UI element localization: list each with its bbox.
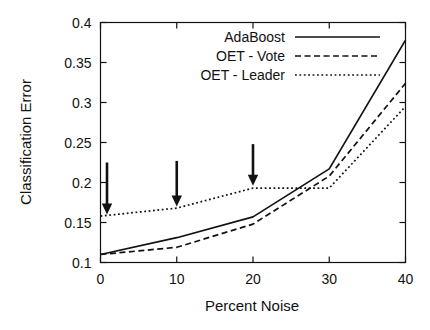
y-tick-label: 0.2 bbox=[72, 175, 92, 191]
x-tick-label: 30 bbox=[321, 271, 337, 287]
chart-figure: 010203040 0.10.150.20.250.30.350.4 AdaBo… bbox=[0, 0, 430, 330]
y-tick-label: 0.1 bbox=[72, 255, 92, 271]
y-axis-title: Classification Error bbox=[17, 79, 34, 205]
x-tick-label: 40 bbox=[398, 271, 414, 287]
legend-label-adaboost: AdaBoost bbox=[224, 29, 285, 45]
x-tick-label: 20 bbox=[245, 271, 261, 287]
y-tick-label: 0.15 bbox=[64, 215, 91, 231]
legend-label-oet-leader: OET - Leader bbox=[200, 67, 285, 83]
y-tick-label: 0.4 bbox=[72, 15, 92, 31]
chart-background bbox=[0, 0, 430, 330]
classification-error-vs-percent-noise-chart: 010203040 0.10.150.20.250.30.350.4 AdaBo… bbox=[0, 0, 430, 330]
legend-label-oet-vote: OET - Vote bbox=[216, 48, 285, 64]
y-tick-label: 0.25 bbox=[64, 135, 91, 151]
x-axis-title: Percent Noise bbox=[205, 297, 299, 314]
y-tick-label: 0.3 bbox=[72, 95, 92, 111]
y-tick-label: 0.35 bbox=[64, 55, 91, 71]
x-tick-label: 0 bbox=[97, 271, 105, 287]
x-tick-label: 10 bbox=[169, 271, 185, 287]
